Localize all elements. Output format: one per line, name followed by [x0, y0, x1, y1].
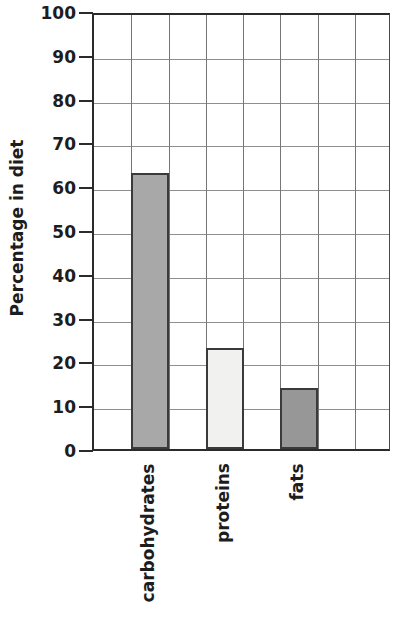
y-axis-tick-label: 50 — [34, 224, 76, 241]
x-axis-label-text: proteins — [213, 463, 233, 543]
x-axis-category-labels: carbohydratesproteinsfats — [92, 455, 390, 624]
bar-proteins[interactable] — [206, 348, 244, 449]
y-axis-tick-mark — [79, 56, 93, 58]
y-axis-tick-label: 70 — [34, 136, 76, 153]
y-axis-tick-mark — [79, 319, 93, 321]
y-axis-tick-label: 80 — [34, 92, 76, 109]
y-axis-tick-mark — [79, 100, 93, 102]
y-axis-tick-label: 20 — [34, 355, 76, 372]
x-axis-label-text: carbohydrates — [138, 463, 158, 602]
y-axis-tick-mark — [79, 406, 93, 408]
y-axis-tick-marks — [79, 0, 93, 465]
y-axis-tick-mark — [79, 143, 93, 145]
y-axis-tick-label: 0 — [34, 443, 76, 460]
y-axis-tick-mark — [79, 12, 93, 14]
x-axis-label-proteins: proteins — [204, 455, 242, 605]
y-axis-tick-label: 90 — [34, 48, 76, 65]
x-axis-label-fats: fats — [278, 455, 316, 605]
x-axis-label-text: fats — [287, 463, 307, 500]
bar-fats[interactable] — [280, 388, 318, 449]
y-axis-tick-mark — [79, 362, 93, 364]
bar-carbohydrates[interactable] — [131, 173, 169, 449]
y-axis-tick-label: 40 — [34, 267, 76, 284]
y-axis-tick-mark — [79, 231, 93, 233]
y-axis-tick-label: 30 — [34, 311, 76, 328]
y-axis-tick-label: 60 — [34, 180, 76, 197]
y-axis-tick-label: 100 — [34, 5, 76, 22]
y-axis-title-text: Percentage in diet — [7, 139, 27, 316]
y-axis-tick-mark — [79, 275, 93, 277]
bar-chart: Percentage in diet 100908070605040302010… — [0, 0, 403, 624]
plot-area — [92, 13, 390, 451]
y-axis-tick-label: 10 — [34, 399, 76, 416]
y-axis-title: Percentage in diet — [0, 0, 34, 455]
y-axis-tick-mark — [79, 187, 93, 189]
y-axis-tick-labels: 1009080706050403020100 — [34, 0, 76, 465]
bars-layer — [94, 15, 389, 449]
y-axis-tick-mark — [79, 450, 93, 452]
x-axis-label-carbohydrates: carbohydrates — [129, 455, 167, 605]
